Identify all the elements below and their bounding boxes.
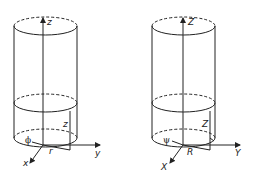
radius-label: r (49, 146, 54, 156)
cylinder-diagrams: z y x r z ϕ Z Y X R Z (0, 0, 253, 178)
radius-label: R (187, 147, 193, 157)
middle-ellipse-back (14, 94, 77, 103)
x-axis-label: X (160, 162, 168, 172)
angle-label: ϕ (25, 135, 31, 145)
height-tick (210, 138, 214, 141)
y-axis-label: y (94, 148, 101, 158)
angle-reference-line (172, 141, 183, 145)
top-ellipse-front (14, 26, 77, 35)
height-label: z (62, 119, 68, 129)
top-ellipse-back (14, 17, 77, 26)
x-axis-label: x (22, 158, 29, 168)
z-axis-label: Z (187, 17, 195, 27)
right-cylinder: Z Y X R Z ψ (152, 17, 242, 172)
bottom-ellipse-back (14, 129, 77, 138)
x-axis (30, 145, 43, 163)
left-cylinder: z y x r z ϕ (14, 17, 101, 168)
middle-ellipse-front (14, 103, 77, 112)
angle-label: ψ (163, 135, 170, 145)
y-axis-label: Y (235, 148, 242, 158)
angle-reference-line (32, 142, 43, 145)
radius-line (43, 145, 70, 150)
z-axis-label: z (46, 17, 52, 27)
height-label: Z (201, 119, 209, 129)
x-axis (170, 145, 183, 163)
